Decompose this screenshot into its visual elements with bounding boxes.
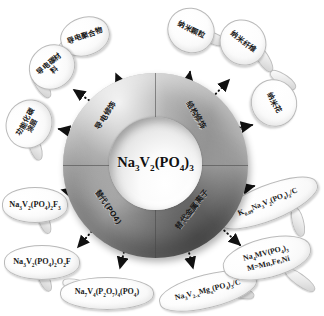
- bubble-na3v2po42f3[interactable]: Na3V2(PO4)2F3: [2, 187, 68, 223]
- bubble-label: 纳米花: [264, 90, 283, 117]
- bubble-label: 导电聚合物: [66, 27, 104, 46]
- bubble-formula: Na3V2(PO4)2O2F: [13, 257, 71, 268]
- bubble-label: 纳米颗粒: [176, 20, 207, 40]
- bubble-nanoflower[interactable]: 纳米花: [242, 71, 305, 135]
- bubble-na7v4p2o74po4[interactable]: Na7V4(P2O7)4(PO4): [60, 277, 154, 310]
- torus-center-sphere: Na3V2(PO4)3: [109, 117, 202, 210]
- bubble-nanoparticles[interactable]: 纳米颗粒: [160, 0, 223, 61]
- bubble-formula: Na4MV(PO4)3M=Mn,Fe,Ni: [242, 242, 292, 273]
- central-torus: 导电修饰 结构修饰 替代(PO4) 替代金属离子 Na3V2(PO4)3: [63, 73, 248, 258]
- bubble-label: 纳米纤维: [229, 30, 258, 55]
- bubble-formula: Na7V4(P2O7)4(PO4): [75, 288, 139, 299]
- bubble-formula: Na3V2(PO4)2F3: [9, 200, 60, 211]
- bubble-formula: Na3V2-xMgx(PO4)3/C: [174, 278, 242, 304]
- bubble-label: 功能化碳涂层: [14, 106, 43, 142]
- center-formula: Na3V2(PO4)3: [117, 154, 194, 173]
- bubble-functionalized-carbon-coating[interactable]: 功能化碳涂层: [0, 91, 61, 157]
